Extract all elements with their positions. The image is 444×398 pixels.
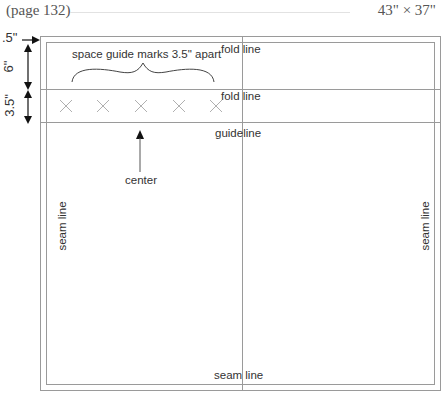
guide-mark-x-icon xyxy=(134,99,148,113)
dimensions-label: 43" × 37" xyxy=(378,2,436,19)
guide-mark-x-icon xyxy=(172,99,186,113)
seam-line-bottom-label: seam line xyxy=(214,369,263,381)
header-rule xyxy=(70,12,350,13)
guide-mark-x-icon xyxy=(96,99,110,113)
guide-section-arrow-icon xyxy=(23,90,33,124)
guideline xyxy=(40,122,441,123)
guide-mark-x-icon xyxy=(59,99,73,113)
seam-line-left-label: seam line xyxy=(56,196,68,256)
page-reference: (page 132) xyxy=(6,2,71,19)
upper-section-arrow-icon xyxy=(23,44,33,90)
fold-line-1-label: fold line xyxy=(221,43,261,55)
seam-line-right-label: seam line xyxy=(419,196,431,256)
guide-mark-x-icon xyxy=(209,99,223,113)
guideline-label: guideline xyxy=(215,127,261,139)
center-label: center xyxy=(125,174,157,186)
spacing-note: space guide marks 3.5" apart xyxy=(72,48,221,60)
center-arrow-icon xyxy=(135,130,145,172)
curly-brace-icon xyxy=(70,60,216,84)
fold-line-2-label: fold line xyxy=(221,90,261,102)
upper-section-label: 6" xyxy=(1,57,16,77)
guide-section-label: 3.5" xyxy=(2,91,17,121)
top-margin-label: .5" xyxy=(2,30,17,45)
